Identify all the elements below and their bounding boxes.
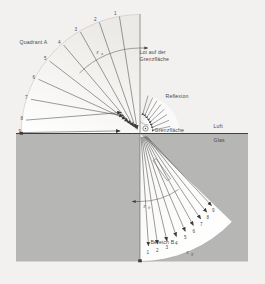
label-normal-line1: Lot auf der (140, 49, 167, 55)
svg-text:9: 9 (19, 129, 22, 134)
svg-text:8: 8 (207, 215, 210, 220)
svg-text:7: 7 (25, 95, 28, 100)
svg-text:2: 2 (94, 17, 97, 22)
svg-text:8: 8 (21, 116, 24, 121)
svg-text:1: 1 (114, 11, 117, 16)
svg-text:g: g (191, 252, 193, 256)
svg-text:1: 1 (147, 250, 150, 255)
svg-text:9: 9 (212, 208, 215, 213)
svg-text:b: b (148, 206, 150, 210)
optics-diagram: Quadrant A Lot auf der Grenzfläche Refle… (0, 0, 265, 284)
label-glas: Glas (214, 137, 226, 143)
svg-text:6: 6 (33, 75, 36, 80)
diagram-svg: Quadrant A Lot auf der Grenzfläche Refle… (0, 0, 265, 284)
label-quadrant-a: Quadrant A (20, 39, 48, 45)
svg-text:5: 5 (44, 56, 47, 61)
svg-text:a: a (101, 52, 103, 56)
normal-bottom-tick (138, 259, 142, 262)
svg-text:5: 5 (184, 235, 187, 240)
svg-text:4: 4 (175, 241, 178, 246)
svg-text:4: 4 (58, 40, 61, 45)
label-luft: Luft (214, 123, 224, 129)
svg-text:2: 2 (156, 248, 159, 253)
label-bereich-b: Bereich B (151, 239, 175, 245)
svg-text:3: 3 (166, 245, 169, 250)
svg-text:3: 3 (75, 27, 78, 32)
label-grenzflaeche: Grenzfläche (155, 127, 185, 133)
glass-region (16, 134, 248, 262)
figure-page: Quadrant A Lot auf der Grenzfläche Refle… (0, 0, 265, 284)
svg-text:6: 6 (193, 229, 196, 234)
label-normal-line2: Grenzfläche (140, 56, 170, 62)
label-reflexion: Reflexion (166, 93, 189, 99)
right-angle-dot (145, 128, 146, 129)
svg-text:7: 7 (200, 222, 203, 227)
